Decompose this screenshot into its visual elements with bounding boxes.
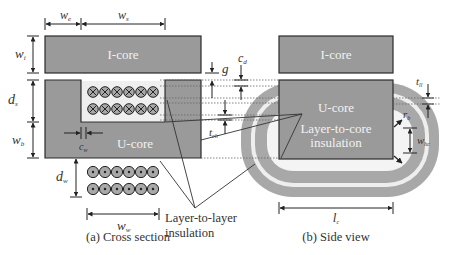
dim-tclr [218, 100, 232, 134]
ds-label: ds [8, 92, 18, 108]
cross-section-caption: (a) Cross section [86, 230, 171, 244]
side-view-caption: (b) Side view [302, 230, 369, 244]
tll-label: tll [416, 75, 423, 88]
side-ucore-label: U-core [318, 100, 354, 115]
icore-label: I-core [107, 47, 138, 62]
side-view: I-core U-core Layer-to-core insulation t… [241, 36, 439, 244]
we-label: we [60, 8, 71, 23]
cross-section-view: I-core U-core [8, 8, 201, 244]
layer-to-layer-line1: Layer-to-layer [165, 211, 238, 225]
cd-label: cd [238, 51, 247, 66]
dim-dw [70, 159, 82, 197]
lc-label: lc [333, 210, 340, 225]
dw-label: dw [56, 169, 68, 185]
layer-to-layer-line2: insulation [165, 226, 215, 240]
ws-label: ws [118, 8, 129, 23]
g-label: g [222, 61, 229, 76]
layer-to-core-line2: insulation [310, 135, 362, 150]
magnetic-component-diagram: I-core U-core [0, 0, 452, 255]
dim-left [27, 36, 39, 158]
dim-cd [234, 65, 248, 100]
wb-label: wb [12, 132, 25, 148]
layer-to-core-line1: Layer-to-core [300, 121, 371, 136]
side-icore-label: I-core [320, 47, 351, 62]
wi-label: wi [15, 46, 26, 62]
winding-out-of-page [87, 166, 158, 194]
ucore-label: U-core [117, 136, 153, 151]
